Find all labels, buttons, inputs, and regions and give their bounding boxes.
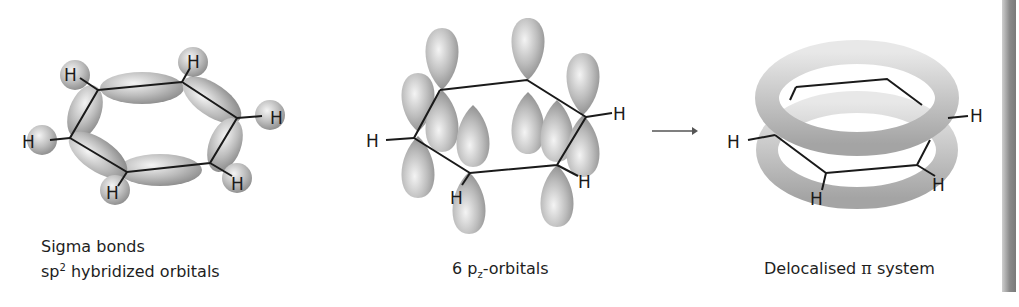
transition-arrow (652, 127, 698, 135)
hydrogen-label: H (970, 106, 983, 126)
caption-text: sp (41, 262, 60, 281)
hydrogen-label: H (106, 183, 119, 203)
hydrogen-label: H (932, 175, 945, 195)
hydrogen-label: H (64, 65, 77, 85)
hydrogen-label: H (450, 188, 463, 208)
hydrogen-label: H (231, 174, 244, 194)
caption-text: system (872, 259, 935, 278)
hydrogen-label: H (578, 172, 591, 192)
hydrogen-label: H (22, 132, 35, 152)
sigma-orbital (118, 154, 202, 186)
caption-line-1: Sigma bonds (41, 236, 220, 257)
caption-p-orbitals: 6 pz-orbitals (452, 258, 549, 285)
caption-delocalised-pi: Delocalised π system (764, 258, 935, 279)
pi-symbol: π (861, 259, 872, 278)
caption-text: Delocalised (764, 259, 861, 278)
caption-sigma-bonds: Sigma bonds sp2 hybridized orbitals (41, 236, 220, 282)
hydrogen-label: H (613, 104, 626, 124)
p-orbitals-molecule: H H H H (366, 18, 626, 234)
sigma-bonds-molecule: H H H H H H (22, 47, 285, 205)
caption-text: 6 p (452, 259, 477, 278)
hydrogen-label: H (727, 132, 740, 152)
hydrogen-label: H (270, 108, 283, 128)
caption-line-2: sp2 hybridized orbitals (41, 257, 220, 282)
hydrogen-label: H (810, 189, 823, 209)
page-edge-bar (1002, 0, 1016, 292)
caption-text: hybridized orbitals (66, 262, 220, 281)
hydrogen-label: H (187, 52, 200, 72)
delocalised-pi-molecule: H H H H (727, 52, 983, 209)
hydrogen-label: H (366, 131, 379, 151)
caption-text: -orbitals (483, 259, 549, 278)
